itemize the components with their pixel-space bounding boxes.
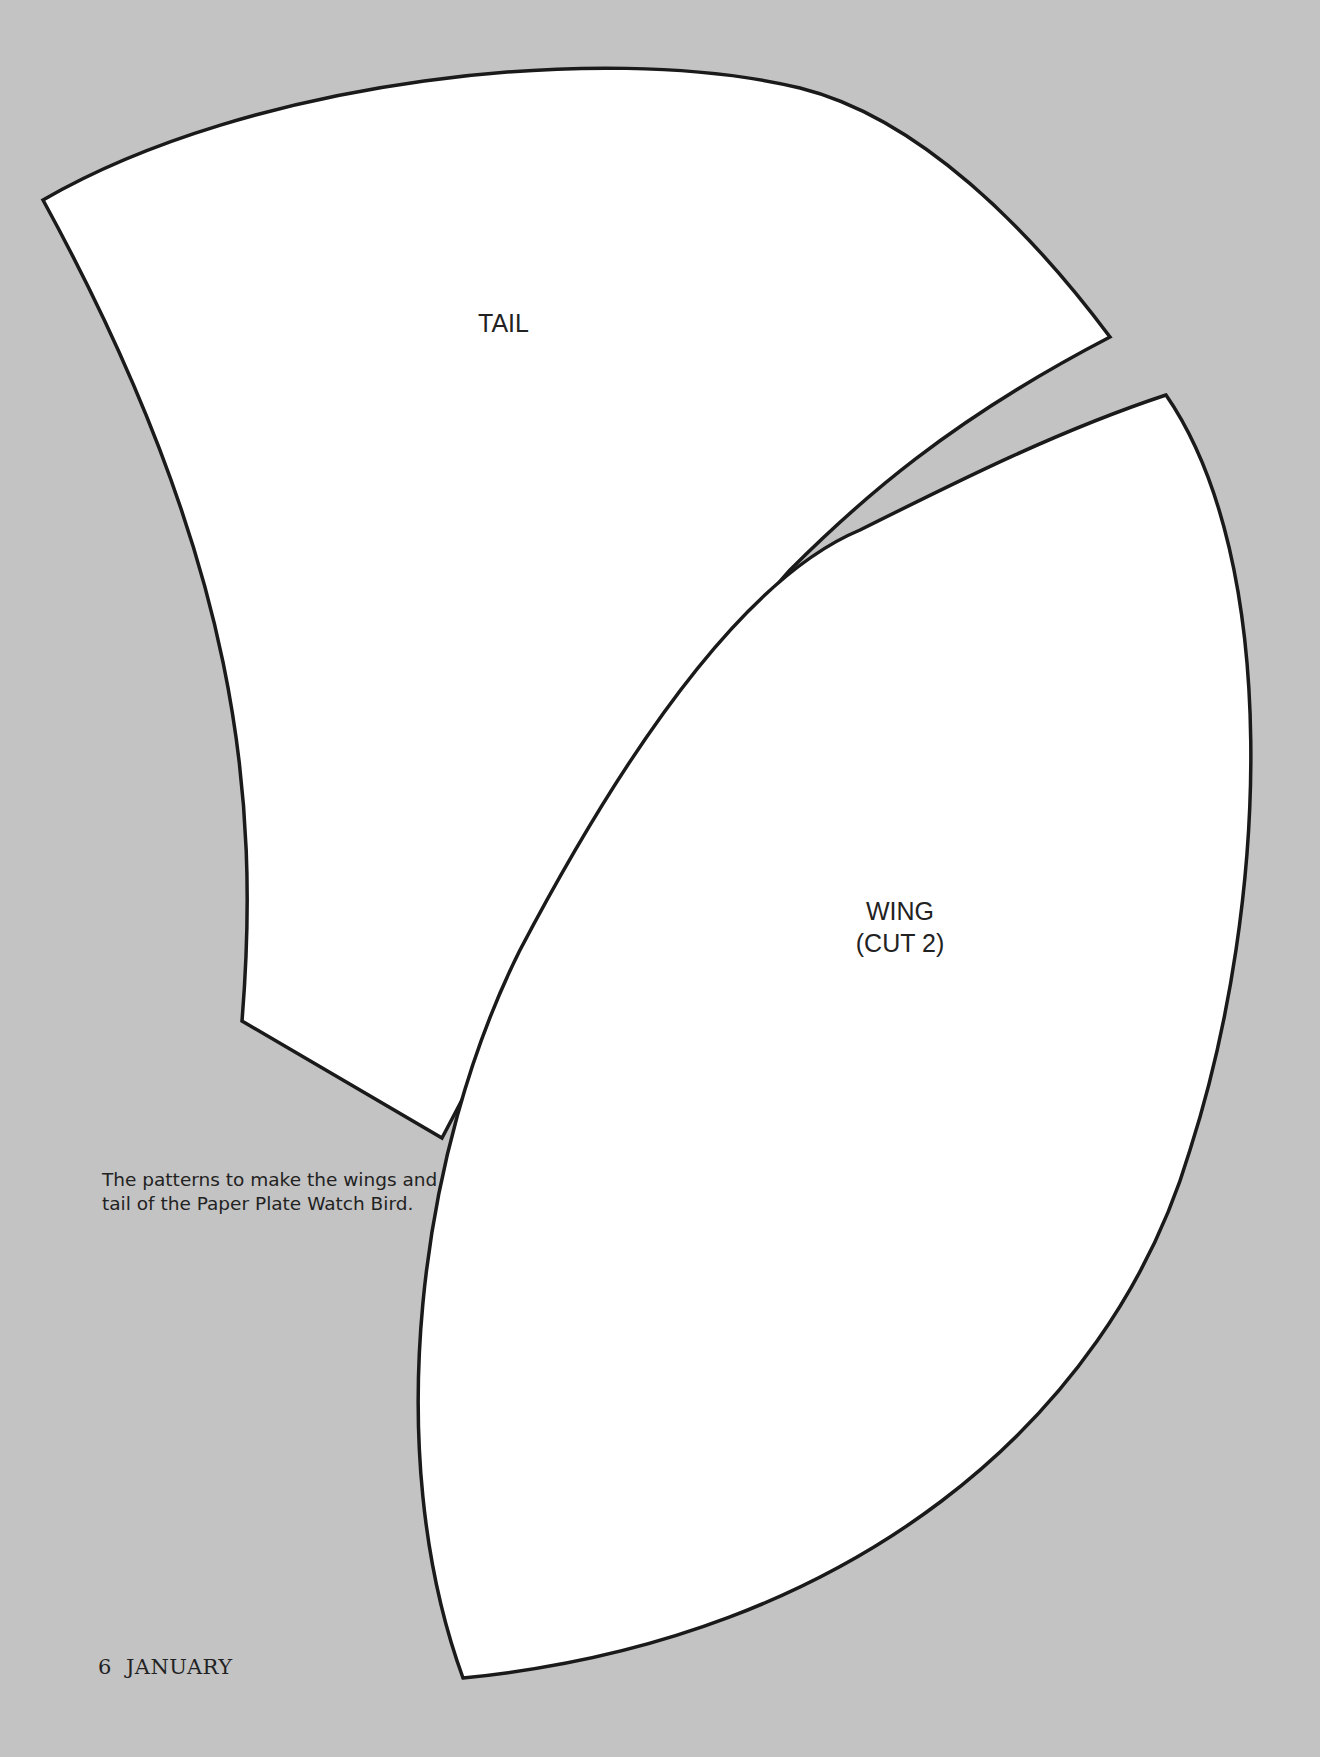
- figure-caption: The patterns to make the wings and tail …: [102, 1168, 442, 1216]
- wing-label-title: WING: [840, 895, 960, 927]
- page: TAIL WING (CUT 2) The patterns to make t…: [0, 0, 1320, 1757]
- wing-label-instruction: (CUT 2): [840, 927, 960, 959]
- tail-label: TAIL: [478, 307, 529, 339]
- page-footer: 6JANUARY: [98, 1655, 233, 1679]
- page-number: 6: [98, 1655, 112, 1679]
- wing-label: WING (CUT 2): [840, 895, 960, 959]
- pattern-outlines: [0, 0, 1320, 1757]
- running-footer-section: JANUARY: [126, 1655, 233, 1679]
